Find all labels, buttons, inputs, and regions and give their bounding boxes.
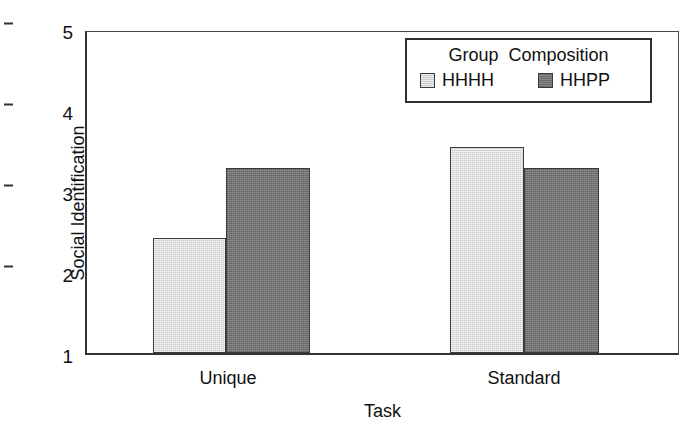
x-tick-label-unique: Unique (199, 369, 256, 387)
y-tick-mark-3 (4, 185, 13, 187)
bar-chart-figure: 5 4 3 2 1 Social Identification (0, 0, 699, 434)
bar-standard-hhpp[interactable] (524, 168, 599, 353)
legend: Group Composition HHHH HHPP (405, 38, 652, 103)
bar-unique-hhhh[interactable] (153, 238, 226, 353)
legend-label-hhhh: HHHH (442, 71, 494, 89)
legend-label-hhpp: HHPP (560, 71, 610, 89)
plot-area: 5 4 3 2 1 Social Identification (85, 31, 679, 355)
x-tick-label-standard: Standard (487, 369, 560, 387)
y-tick-mark-2 (4, 266, 13, 268)
bar-unique-hhpp[interactable] (226, 168, 310, 353)
y-tick-mark-5 (4, 23, 13, 25)
y-tick-mark-4 (4, 104, 13, 106)
legend-entry-hhpp[interactable]: HHPP (538, 71, 610, 89)
bar-standard-hhhh[interactable] (450, 147, 524, 353)
y-axis-title: Social Identification (69, 38, 87, 368)
legend-title: Group Composition (407, 45, 650, 65)
x-axis-title: Task (87, 402, 678, 420)
legend-swatch-dark-icon (538, 73, 553, 88)
legend-entry-hhhh[interactable]: HHHH (420, 71, 494, 89)
legend-swatch-light-icon (420, 73, 435, 88)
